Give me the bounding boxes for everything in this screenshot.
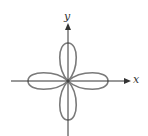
rose-curve-diagram: [0, 0, 148, 136]
y-axis-label: y: [64, 11, 70, 22]
x-axis-arrowhead-icon: [124, 78, 131, 84]
x-axis-label: x: [133, 74, 139, 85]
y-axis-arrowhead-icon: [65, 23, 71, 30]
